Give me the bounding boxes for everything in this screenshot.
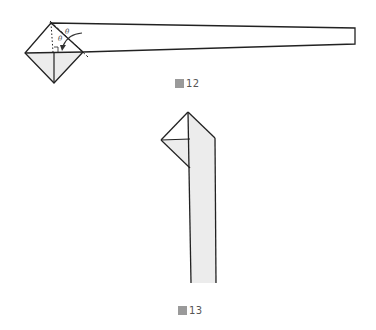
figure-glyph-icon xyxy=(175,79,184,88)
origami-diagram: θ θ xyxy=(0,0,376,330)
figure-glyph-icon xyxy=(178,306,187,315)
figure-12: θ θ xyxy=(25,21,355,83)
figure-12-caption: 12 xyxy=(175,78,200,89)
angle-label: θ xyxy=(58,35,63,43)
figure-13 xyxy=(161,112,216,283)
dotted-line xyxy=(51,23,53,52)
figure-13-caption: 13 xyxy=(178,305,203,316)
right-angle-icon xyxy=(54,47,58,52)
strip xyxy=(51,23,355,52)
